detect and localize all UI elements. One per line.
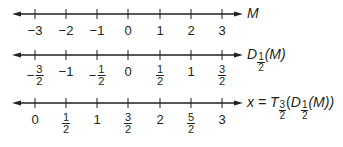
left-arrow-icon (12, 12, 21, 17)
tick-label: 1 (93, 113, 100, 126)
minus-sign: − (89, 68, 97, 83)
tick-label: 3 (218, 24, 225, 37)
tick-label: −1 (59, 65, 74, 78)
tick-label: 32 (218, 64, 226, 87)
fraction: 12 (62, 112, 70, 135)
function-argument: (M) (265, 46, 286, 62)
tick-label: 12 (156, 64, 164, 87)
fraction: 32 (218, 64, 226, 87)
function-argument: (M)) (308, 94, 334, 110)
left-arrow-icon (12, 101, 21, 106)
denominator: 2 (302, 111, 308, 121)
right-arrow-icon (234, 101, 243, 106)
tick-label: −2 (59, 24, 74, 37)
number-line-D (12, 50, 243, 60)
denominator: 2 (35, 76, 43, 87)
fraction: 32 (35, 64, 43, 87)
fraction: 52 (187, 112, 195, 135)
denominator: 2 (218, 76, 226, 87)
function-name: D (247, 46, 257, 62)
function-name: T (270, 94, 279, 110)
denominator: 2 (97, 76, 105, 87)
tick-label: 0 (124, 65, 131, 78)
axis-name-M: M (247, 5, 259, 21)
fraction: 32 (124, 112, 132, 135)
tick-label: −12 (89, 64, 106, 87)
tick-label: 3 (218, 113, 225, 126)
denominator: 2 (62, 124, 70, 135)
axis-name-D: D12(M) (247, 46, 286, 73)
inner-function-name: D (291, 94, 301, 110)
tick-label: 0 (31, 113, 38, 126)
denominator: 2 (187, 124, 195, 135)
number-line-x (12, 98, 243, 108)
number-lines (0, 0, 343, 147)
number-line-M (12, 9, 243, 19)
tick-label: −32 (27, 64, 44, 87)
tick-label: 1 (187, 65, 194, 78)
denominator: 2 (124, 124, 132, 135)
left-arrow-icon (12, 53, 21, 58)
right-arrow-icon (234, 12, 243, 17)
tick-label: 1 (156, 24, 163, 37)
tick-label: 12 (62, 112, 70, 135)
fraction: 12 (257, 52, 265, 73)
tick-label: 2 (187, 24, 194, 37)
axis-name-x: x = T32(D12(M)) (247, 94, 334, 121)
denominator: 2 (280, 111, 286, 121)
equation-prefix: x = (247, 94, 270, 110)
tick-label: 32 (124, 112, 132, 135)
tick-label: −3 (28, 24, 43, 37)
tick-label: 2 (156, 113, 163, 126)
minus-sign: − (27, 68, 35, 83)
right-arrow-icon (234, 53, 243, 58)
fraction: 12 (156, 64, 164, 87)
denominator: 2 (258, 63, 264, 73)
tick-label: 0 (124, 24, 131, 37)
denominator: 2 (156, 76, 164, 87)
fraction: 32 (279, 100, 287, 121)
tick-label: 52 (187, 112, 195, 135)
fraction: 12 (97, 64, 105, 87)
tick-label: −1 (90, 24, 105, 37)
